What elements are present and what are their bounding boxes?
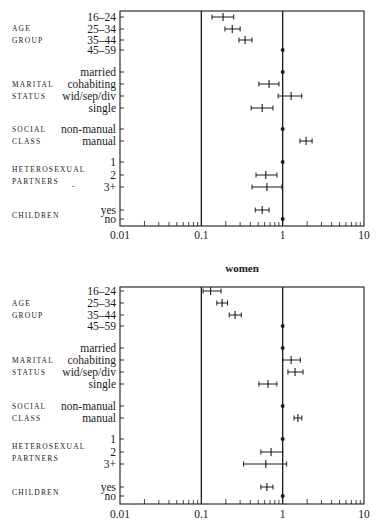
category-label: manual [82,135,116,147]
x-tick-label: 0.1 [194,229,209,241]
category-label: single [89,102,116,115]
category-label: 16–24 [87,285,116,297]
group-label: CHILDREN [12,211,60,220]
plot-frame [120,11,364,226]
group-label: CHILDREN [12,488,60,497]
x-tick-label: 10 [358,229,370,241]
panel-women: women0.010.1110AGEGROUP16–2425–3435–4445… [12,262,370,520]
group-label: GROUP [12,36,43,45]
forest-plot-figure: 0.010.1110AGEGROUP16–2425–3435–4445–59MA… [0,0,379,527]
panel-men: 0.010.1110AGEGROUP16–2425–3435–4445–59MA… [12,11,370,241]
x-tick-label: 10 [358,508,370,520]
category-label: non-manual [61,123,116,135]
category-label: 25–34 [87,297,116,309]
category-label: single [89,378,116,391]
reference-point [281,437,285,441]
group-label: MARITAL [12,80,54,89]
category-label: manual [82,412,116,424]
reference-point [281,70,285,74]
group-label: STATUS [12,92,46,101]
reference-point [281,127,285,131]
x-tick-label: 1 [280,508,286,520]
category-label: 2 [110,446,116,458]
group-label: AGE [12,299,31,308]
reference-point [281,217,285,221]
reference-point [281,48,285,52]
category-label: 1 [110,156,116,168]
category-label: non-manual [61,400,116,412]
group-label: CLASS [12,137,41,146]
x-tick-label: 1 [280,229,286,241]
category-label: 45–59 [87,44,116,56]
category-label: married [80,66,116,78]
group-label: PARTNERS [12,454,59,463]
group-label: SOCIAL [12,402,46,411]
category-label: 3+ [104,181,116,193]
group-label: MARITAL [12,356,54,365]
group-label: SOCIAL [12,125,46,134]
category-label: no [105,213,117,225]
reference-point [281,346,285,350]
category-label: 45–59 [87,320,116,332]
group-label: PARTNERS [12,177,59,186]
category-label: 16–24 [87,11,116,23]
category-label: 3+ [104,458,116,470]
x-tick-label: 0.01 [110,508,130,520]
category-label: no [105,490,117,502]
panel-title: women [225,262,259,274]
group-label: CLASS [12,414,41,423]
reference-point [281,494,285,498]
stray-mark: - [72,182,76,191]
group-label: HETEROSEXUAL [12,165,86,174]
group-label: HETEROSEXUAL [12,442,86,451]
group-label: AGE [12,24,31,33]
category-label: 1 [110,433,116,445]
x-tick-label: 0.01 [110,229,130,241]
plot-frame [120,287,364,504]
category-label: 2 [110,169,116,181]
x-tick-label: 0.1 [194,508,209,520]
category-label: married [80,342,116,354]
group-label: GROUP [12,311,43,320]
group-label: STATUS [12,368,46,377]
reference-point [281,324,285,328]
reference-point [281,404,285,408]
reference-point [281,160,285,164]
